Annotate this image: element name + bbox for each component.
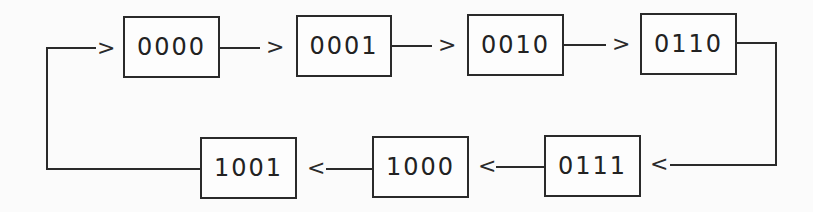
state-label: 1001 bbox=[214, 154, 283, 182]
state-box-0001: 0001 bbox=[296, 15, 392, 77]
connector-line bbox=[47, 168, 200, 170]
state-label: 0010 bbox=[481, 31, 550, 59]
state-label: 0001 bbox=[309, 32, 378, 60]
connector-line bbox=[46, 47, 96, 49]
connector-line bbox=[737, 42, 777, 44]
arrow-right-icon: > bbox=[612, 33, 630, 55]
arrow-left-icon: < bbox=[650, 153, 668, 175]
state-diagram: 0000 0001 0010 0110 1001 1000 0111 > > >… bbox=[0, 0, 813, 212]
state-label: 1000 bbox=[386, 153, 455, 181]
arrow-right-icon: > bbox=[266, 36, 284, 58]
connector-line bbox=[564, 44, 606, 46]
state-box-0110: 0110 bbox=[640, 13, 737, 75]
state-label: 0111 bbox=[558, 152, 627, 180]
state-label: 0000 bbox=[137, 33, 206, 61]
connector-line bbox=[670, 164, 777, 166]
state-label: 0110 bbox=[654, 30, 723, 58]
state-box-1001: 1001 bbox=[200, 137, 297, 199]
connector-line bbox=[775, 42, 777, 166]
connector-line bbox=[220, 47, 260, 49]
connector-line bbox=[46, 47, 48, 170]
state-box-1000: 1000 bbox=[372, 136, 469, 198]
connector-line bbox=[326, 168, 372, 170]
state-box-0010: 0010 bbox=[467, 14, 564, 76]
arrow-left-icon: < bbox=[478, 155, 496, 177]
connector-line bbox=[392, 45, 432, 47]
state-box-0111: 0111 bbox=[544, 135, 641, 197]
arrow-left-icon: < bbox=[307, 157, 325, 179]
arrow-right-icon: > bbox=[438, 34, 456, 56]
state-box-0000: 0000 bbox=[123, 16, 220, 78]
arrow-right-icon: > bbox=[97, 37, 115, 59]
connector-line bbox=[496, 166, 544, 168]
